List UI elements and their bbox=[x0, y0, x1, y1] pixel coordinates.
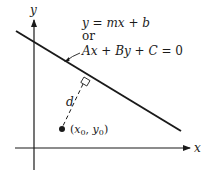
equation-slope-intercept: y = mx + b bbox=[81, 16, 150, 30]
diagram-canvas: x y y = mx + b or Ax + By + C = 0 d (x0,… bbox=[0, 0, 208, 178]
x-axis-label: x bbox=[194, 141, 201, 155]
point-label: (x0, y0) bbox=[70, 123, 108, 137]
equation-connector: or bbox=[82, 29, 95, 43]
distance-label: d bbox=[66, 95, 74, 109]
y-axis-label: y bbox=[29, 3, 37, 17]
point-marker bbox=[59, 126, 65, 132]
equation-general-form: Ax + By + C = 0 bbox=[81, 44, 183, 58]
